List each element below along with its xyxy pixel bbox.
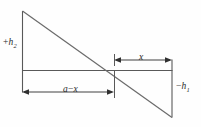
label-plus-h2-subscript: 2 — [14, 42, 17, 49]
dimension-x-arrow-left — [114, 57, 121, 63]
label-x: x — [139, 53, 143, 63]
dimension-x-arrow-right — [165, 57, 172, 63]
label-a-minus-x: a−x — [63, 85, 78, 95]
label-minus-h1: −h1 — [176, 82, 190, 93]
label-ax-symbol-x: x — [74, 84, 78, 94]
label-plus-h2: +h2 — [3, 38, 17, 49]
label-minus-h1-subscript: 1 — [187, 86, 190, 93]
dimension-ax-arrow-right — [107, 89, 114, 95]
diagonal-line — [23, 11, 173, 118]
figure-container: +h2 −h1 x a−x — [0, 0, 201, 127]
beam-moment-diagram-svg — [0, 0, 201, 127]
